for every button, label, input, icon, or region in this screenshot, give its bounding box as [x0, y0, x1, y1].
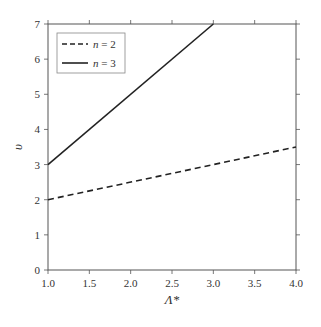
- y-tick-label: 6: [35, 53, 41, 65]
- x-axis-label: Λ*: [163, 292, 180, 307]
- y-axis-label: υ: [10, 144, 25, 150]
- x-tick-label: 2.5: [165, 277, 179, 289]
- y-tick-label: 2: [35, 194, 41, 206]
- y-tick-label: 7: [35, 18, 41, 30]
- y-tick-label: 3: [35, 159, 41, 171]
- y-tick-label: 4: [35, 123, 41, 135]
- legend: n = 2 n = 3: [57, 33, 125, 73]
- x-tick-label: 3.0: [206, 277, 220, 289]
- legend-label-n3: n = 3: [93, 57, 116, 69]
- y-tick-label: 1: [35, 229, 41, 241]
- x-tick-label: 1.5: [82, 277, 96, 289]
- x-tick-label: 1.0: [41, 277, 55, 289]
- y-tick-label: 0: [35, 264, 41, 276]
- x-tick-label: 2.0: [124, 277, 138, 289]
- line-chart: 1.01.52.02.53.03.54.001234567 n = 2 n = …: [0, 0, 321, 327]
- x-tick-label: 4.0: [289, 277, 303, 289]
- x-tick-label: 3.5: [248, 277, 262, 289]
- y-tick-label: 5: [35, 88, 41, 100]
- legend-label-n2: n = 2: [93, 38, 116, 50]
- series-line: [48, 147, 296, 200]
